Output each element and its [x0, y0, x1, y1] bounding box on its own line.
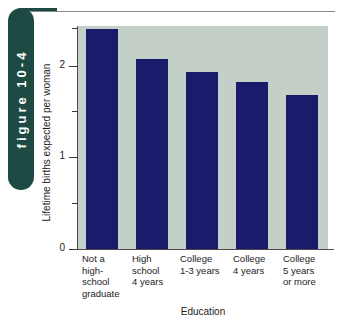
y-tick-label-0: 0	[5, 242, 65, 253]
bar-not-a-high-school-graduate	[86, 29, 118, 249]
y-axis-line	[77, 26, 78, 250]
bar-college-1-3-years	[186, 72, 218, 249]
y-tick-1-5	[72, 111, 78, 112]
y-tick-0-5	[72, 203, 78, 204]
y-tick-label-1: 1	[5, 150, 65, 161]
x-label-high-school-4-years: High school 4 years	[132, 253, 176, 288]
y-tick-0	[69, 249, 78, 250]
x-label-college-4-years: College 4 years	[233, 253, 279, 276]
x-axis-category-labels: Not a high- school graduate High school …	[78, 253, 328, 301]
bar-high-school-4-years	[136, 59, 168, 249]
bar-college-5-years-or-more	[286, 95, 318, 249]
x-label-college-5-years-or-more: College 5 years or more	[283, 253, 331, 288]
y-tick-label-2: 2	[5, 59, 65, 70]
y-tick-1	[69, 157, 78, 158]
x-axis-title: Education	[78, 306, 328, 317]
bar-college-4-years	[236, 82, 268, 249]
bar-chart: Lifetime births expected per woman 0 1 2…	[0, 0, 342, 325]
x-axis-line	[70, 249, 334, 250]
y-tick-2-5	[72, 28, 78, 29]
y-tick-2	[69, 66, 78, 67]
x-label-not-a-high-school-graduate: Not a high- school graduate	[82, 253, 126, 299]
plot-area	[78, 26, 328, 249]
x-label-college-1-3-years: College 1-3 years	[180, 253, 230, 276]
